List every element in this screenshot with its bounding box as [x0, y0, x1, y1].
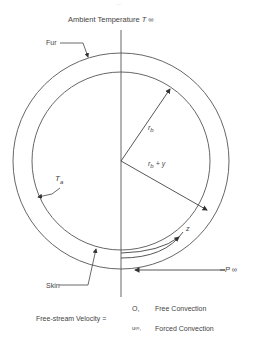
skin-leader [59, 249, 96, 285]
velocity-case1-value: O, [132, 305, 139, 312]
velocity-case2-value: u∞, [132, 325, 141, 331]
fur-leader [60, 43, 88, 57]
title-symbol: T ∞ [142, 15, 154, 24]
velocity-case2-label: Forced Convection [155, 325, 214, 332]
p-infinity-label: P ∞ [225, 266, 237, 274]
fur-label: Fur [46, 39, 57, 46]
skin-label: Skin [46, 282, 60, 289]
ta-leader [38, 188, 60, 197]
velocity-case1-label: Free Convection [155, 305, 206, 312]
diagram-canvas [0, 0, 253, 345]
ta-label: Ta [55, 175, 63, 185]
rb-arrow [121, 89, 170, 161]
velocity-prefix: Free-stream Velocity = [36, 315, 106, 322]
title-label: Ambient Temperature T ∞ [68, 16, 154, 24]
z-label: z [186, 225, 190, 232]
z-arc-outer [121, 232, 183, 258]
rb-label: rb [148, 124, 154, 133]
rb-plus-y-label: rb + y [148, 160, 165, 169]
